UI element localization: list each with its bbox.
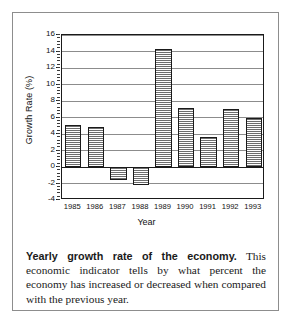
y-minor-tick <box>57 57 60 58</box>
y-minor-tick <box>57 136 60 137</box>
y-minor-tick <box>57 163 60 164</box>
y-minor-tick <box>57 159 60 160</box>
y-minor-tick <box>57 186 60 187</box>
y-minor-tick <box>57 107 60 108</box>
y-minor-tick <box>57 37 60 38</box>
y-minor-tick <box>57 41 60 42</box>
gridline <box>62 183 263 184</box>
y-minor-tick <box>57 54 60 55</box>
bar <box>155 49 171 167</box>
x-tick-label: 1992 <box>219 202 242 211</box>
y-minor-tick <box>57 70 60 71</box>
y-minor-tick <box>57 166 60 167</box>
y-minor-tick <box>57 150 60 151</box>
y-minor-tick <box>57 176 60 177</box>
y-minor-tick <box>57 80 60 81</box>
y-minor-tick <box>57 100 60 101</box>
y-tick-label: -2 <box>33 179 55 187</box>
bar <box>246 118 262 168</box>
y-minor-tick <box>57 173 60 174</box>
y-tick-label: 16 <box>33 30 55 38</box>
y-minor-tick <box>57 77 60 78</box>
bar <box>200 137 216 167</box>
y-minor-tick <box>57 123 60 124</box>
y-minor-tick <box>57 126 60 127</box>
y-minor-tick <box>57 34 60 35</box>
y-minor-tick <box>57 146 60 147</box>
bar <box>65 125 81 167</box>
caption-lead: Yearly growth rate of the economy. <box>26 250 237 262</box>
y-tick-label: 6 <box>33 113 55 121</box>
y-minor-tick <box>57 140 60 141</box>
y-minor-tick <box>57 93 60 94</box>
y-minor-tick <box>57 51 60 52</box>
y-tick-label: 14 <box>33 47 55 55</box>
bar <box>88 127 104 167</box>
y-minor-tick <box>57 103 60 104</box>
y-minor-tick <box>57 189 60 190</box>
y-minor-tick <box>57 97 60 98</box>
y-minor-tick <box>57 47 60 48</box>
x-tick-label: 1991 <box>196 202 219 211</box>
bar <box>178 108 194 167</box>
y-minor-tick <box>57 143 60 144</box>
y-minor-tick <box>57 120 60 121</box>
y-minor-tick <box>57 117 60 118</box>
y-tick-label: 4 <box>33 129 55 137</box>
x-axis-label: Year <box>13 217 280 227</box>
x-tick-label: 1986 <box>84 202 107 211</box>
y-minor-tick <box>57 130 60 131</box>
bar <box>110 167 126 180</box>
y-minor-tick <box>57 67 60 68</box>
figure-card: Growth Rate (%) Year 1614121086420-2-4 1… <box>12 12 279 311</box>
bar <box>133 167 149 185</box>
y-minor-tick <box>57 84 60 85</box>
y-minor-tick <box>57 153 60 154</box>
y-minor-tick <box>57 183 60 184</box>
y-minor-tick <box>57 192 60 193</box>
bar <box>223 109 239 167</box>
x-tick-label: 1990 <box>174 202 197 211</box>
y-minor-tick <box>57 110 60 111</box>
gridline <box>62 35 263 36</box>
y-minor-tick <box>57 133 60 134</box>
y-minor-tick <box>57 156 60 157</box>
y-minor-tick <box>57 169 60 170</box>
y-minor-tick <box>57 199 60 200</box>
y-tick-label: 10 <box>33 80 55 88</box>
y-minor-tick <box>57 113 60 114</box>
y-minor-tick <box>57 87 60 88</box>
y-minor-tick <box>57 90 60 91</box>
y-tick-label: 0 <box>33 162 55 170</box>
y-minor-tick <box>57 44 60 45</box>
bar-chart: Growth Rate (%) Year 1614121086420-2-4 1… <box>13 13 280 238</box>
x-tick-label: 1993 <box>241 202 264 211</box>
plot-area <box>61 34 264 199</box>
y-minor-tick <box>57 179 60 180</box>
figure-caption: Yearly growth rate of the economy. This … <box>26 249 266 306</box>
y-minor-tick <box>57 74 60 75</box>
x-tick-label: 1987 <box>106 202 129 211</box>
y-tick-label: -4 <box>33 195 55 203</box>
y-tick-label: 12 <box>33 63 55 71</box>
y-tick-label: 2 <box>33 146 55 154</box>
y-tick-label: 8 <box>33 96 55 104</box>
x-tick-label: 1989 <box>151 202 174 211</box>
y-minor-tick <box>57 196 60 197</box>
y-minor-tick <box>57 60 60 61</box>
x-tick-label: 1985 <box>61 202 84 211</box>
x-tick-label: 1988 <box>129 202 152 211</box>
y-minor-tick <box>57 64 60 65</box>
